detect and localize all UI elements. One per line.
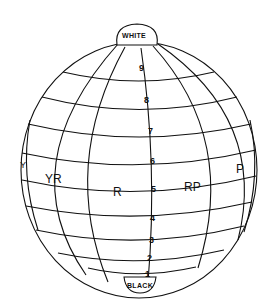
value-label-6: 6 xyxy=(150,156,155,166)
sphere-outline xyxy=(21,42,257,298)
hue-label-yr: YR xyxy=(45,172,62,186)
hue-label-y: Y xyxy=(20,160,26,170)
value-label-9: 9 xyxy=(139,63,144,73)
value-label-7: 7 xyxy=(148,126,153,136)
value-label-3: 3 xyxy=(149,235,154,245)
value-label-2: 2 xyxy=(147,253,152,263)
value-label-5: 5 xyxy=(151,184,156,194)
hue-label-r: R xyxy=(113,185,122,199)
value-label-8: 8 xyxy=(144,95,149,105)
hue-label-p: P xyxy=(236,162,244,176)
value-label-1: 1 xyxy=(145,269,150,279)
white-label: WHITE xyxy=(122,32,146,39)
munsell-sphere-diagram: WHITE BLACK 9 8 7 6 5 4 3 2 1 Y YR R RP … xyxy=(0,0,278,306)
value-label-4: 4 xyxy=(150,213,155,223)
hue-label-rp: RP xyxy=(184,180,201,194)
black-label: BLACK xyxy=(127,282,153,289)
